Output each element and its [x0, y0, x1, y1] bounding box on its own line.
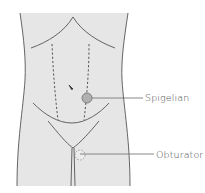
- spigelian-marker-icon: [82, 93, 92, 103]
- obturator-label: Obturator: [156, 150, 203, 160]
- spigelian-label: Spigelian: [145, 93, 189, 103]
- obturator-marker-icon: [75, 150, 85, 160]
- hernia-sites-diagram: Spigelian Obturator: [0, 0, 205, 193]
- torso-silhouette: [17, 13, 130, 186]
